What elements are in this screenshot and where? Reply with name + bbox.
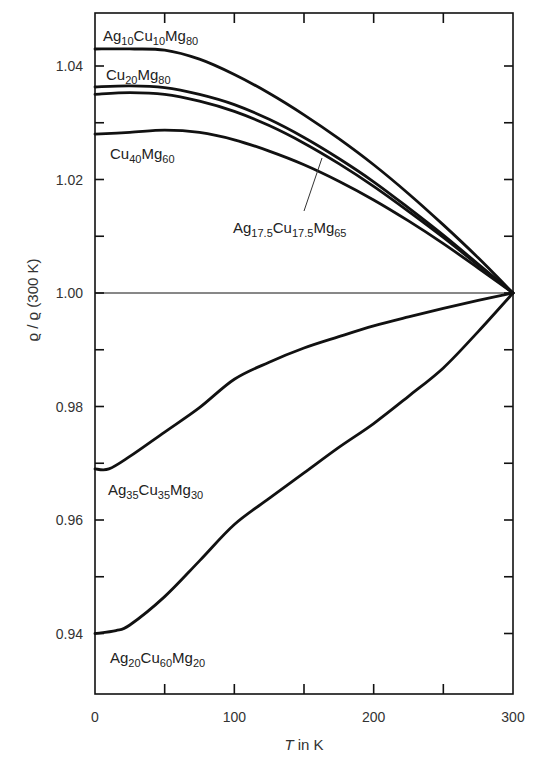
curve-Ag35Cu35Mg30 (95, 293, 513, 470)
curve-Ag17.5Cu17.5Mg65 (95, 93, 513, 293)
curve-label-Cu40Mg60: Cu40Mg60 (110, 145, 175, 165)
curve-Ag20Cu60Mg20 (95, 293, 513, 634)
y-tick-label: 0.98 (56, 399, 83, 415)
curve-label-Ag10Cu10Mg80: Ag10Cu10Mg80 (103, 27, 198, 47)
axis-titles: T in K ϱ / ϱ (300 K) (24, 258, 324, 753)
curve-labels: Ag10Cu10Mg80Cu20Mg80Ag17.5Cu17.5Mg65Cu40… (103, 27, 346, 669)
x-axis-title: T in K (284, 736, 323, 753)
curve-label-Cu20Mg80: Cu20Mg80 (106, 66, 171, 86)
data-curves (95, 49, 513, 634)
curve-Cu20Mg80 (95, 86, 513, 293)
y-tick-label: 1.02 (56, 172, 83, 188)
y-tick-label: 0.96 (56, 512, 83, 528)
y-axis-title: ϱ / ϱ (300 K) (24, 258, 41, 341)
curve-label-Ag35Cu35Mg30: Ag35Cu35Mg30 (108, 481, 203, 501)
x-tick-label: 300 (501, 709, 525, 725)
curve-label-Ag20Cu60Mg20: Ag20Cu60Mg20 (110, 649, 205, 669)
x-tick-label: 100 (223, 709, 247, 725)
resistivity-ratio-chart: 01002003000.940.960.981.001.021.04 Ag10C… (0, 0, 549, 765)
x-tick-label: 200 (362, 709, 386, 725)
axis-ticks: 01002003000.940.960.981.001.021.04 (56, 13, 525, 725)
curve-label-Ag17.5Cu17.5Mg65: Ag17.5Cu17.5Mg65 (233, 219, 346, 239)
y-tick-label: 1.04 (56, 58, 83, 74)
y-tick-label: 0.94 (56, 626, 83, 642)
y-tick-label: 1.00 (56, 285, 83, 301)
x-tick-label: 0 (91, 709, 99, 725)
